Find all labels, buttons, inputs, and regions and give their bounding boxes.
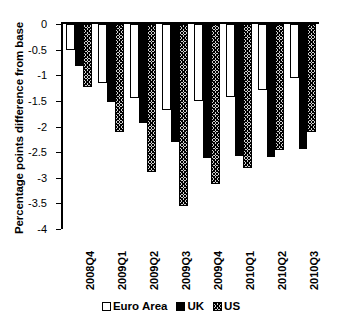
bar-group	[159, 24, 191, 229]
y-axis-title: Percentage points difference from base	[13, 13, 25, 243]
y-tick-label: -0.5	[28, 44, 47, 55]
bar-us	[243, 24, 251, 168]
y-tick-label: -2.5	[28, 147, 47, 158]
y-tick: -1	[56, 75, 61, 76]
bar-euro	[290, 24, 298, 78]
bar-euro	[258, 24, 266, 90]
bar-group	[191, 24, 223, 229]
y-tick-label: -3.5	[28, 198, 47, 209]
bar-groups	[63, 24, 319, 229]
bar-uk	[203, 24, 211, 158]
bar-euro	[66, 24, 74, 50]
y-tick: -2	[56, 127, 61, 128]
x-axis-label: 2010Q2	[276, 228, 288, 290]
x-axis-label: 2008Q4	[84, 228, 96, 290]
plot-area: 0-0.5-1-1.5-2-2.5-3-3.5-4	[63, 24, 319, 229]
legend-item-uk: UK	[176, 300, 204, 312]
x-axis-labels: 2008Q42009Q12009Q22009Q32009Q42010Q12010…	[63, 232, 319, 294]
bar-us	[275, 24, 283, 150]
legend-swatch-icon	[213, 302, 222, 311]
bar-uk	[139, 24, 147, 123]
bar-us	[115, 24, 123, 132]
bar-group	[95, 24, 127, 229]
bar-group	[63, 24, 95, 229]
bar-us	[211, 24, 219, 184]
y-tick-label: -4	[37, 224, 47, 235]
bar-us	[307, 24, 315, 132]
y-tick-label: -2	[37, 121, 47, 132]
y-tick: -2.5	[56, 152, 61, 153]
y-tick: -3	[56, 178, 61, 179]
x-axis-label: 2009Q4	[212, 228, 224, 290]
bar-euro	[162, 24, 170, 110]
y-tick: -1.5	[56, 101, 61, 102]
bar-uk	[235, 24, 243, 156]
bar-group	[255, 24, 287, 229]
bar-uk	[267, 24, 275, 157]
x-axis-label: 2009Q3	[180, 228, 192, 290]
bar-group	[127, 24, 159, 229]
y-tick: -4	[56, 229, 61, 230]
bar-us	[179, 24, 187, 206]
x-axis-label: 2009Q1	[116, 228, 128, 290]
bar-euro	[194, 24, 202, 101]
legend-swatch-icon	[102, 302, 111, 311]
x-axis-label: 2010Q3	[308, 228, 320, 290]
bar-uk	[299, 24, 307, 149]
legend-swatch-icon	[176, 302, 185, 311]
bar-group	[287, 24, 319, 229]
bar-us	[147, 24, 155, 172]
y-tick-label: -1	[37, 70, 47, 81]
x-axis-label: 2009Q2	[148, 228, 160, 290]
bar-euro	[226, 24, 234, 97]
y-tick-label: -1.5	[28, 95, 47, 106]
y-tick: 0	[56, 24, 61, 25]
legend-item-us: US	[213, 300, 240, 312]
chart-figure: Percentage points difference from base 0…	[0, 0, 342, 335]
bar-euro	[130, 24, 138, 98]
legend-item-euro: Euro Area	[102, 300, 168, 312]
bar-us	[83, 24, 91, 87]
legend-label: UK	[187, 300, 204, 312]
legend-label: Euro Area	[113, 300, 168, 312]
bar-group	[223, 24, 255, 229]
y-tick-label: 0	[41, 19, 47, 30]
bar-euro	[98, 24, 106, 83]
bar-uk	[107, 24, 115, 102]
y-tick: -0.5	[56, 50, 61, 51]
bar-uk	[171, 24, 179, 142]
bar-uk	[75, 24, 83, 66]
legend-label: US	[224, 300, 240, 312]
y-tick-label: -3	[37, 172, 47, 183]
x-axis-label: 2010Q1	[244, 228, 256, 290]
chart-legend: Euro AreaUKUS	[0, 300, 342, 312]
y-tick: -3.5	[56, 203, 61, 204]
